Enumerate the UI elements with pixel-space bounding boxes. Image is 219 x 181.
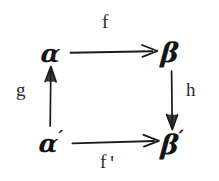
- node-beta-symbol: β: [160, 37, 180, 68]
- commutative-diagram-canvas: α β α′ β′ f g h f': [0, 0, 219, 181]
- edge-label-f: f: [102, 12, 109, 32]
- edge-label-g-text: g: [16, 79, 26, 100]
- node-beta: β: [160, 36, 179, 66]
- edge-label-h: h: [186, 80, 197, 100]
- node-alpha-symbol: α: [39, 39, 61, 68]
- arrow-g: [45, 67, 56, 127]
- edge-label-g: g: [16, 80, 27, 100]
- arrow-h: [167, 71, 178, 130]
- node-alpha-prime: α′: [38, 128, 64, 156]
- node-alpha: α: [40, 38, 61, 66]
- edge-label-f-prime-prime-mark: ': [107, 155, 117, 173]
- arrow-f: [71, 45, 158, 57]
- edge-label-h-text: h: [186, 79, 196, 100]
- edge-label-f-prime: f': [100, 152, 117, 172]
- node-beta-prime: β′: [160, 128, 184, 158]
- arrow-f-prime: [73, 135, 160, 147]
- edge-label-f-text: f: [102, 11, 108, 32]
- edge-label-f-prime-text: f: [100, 151, 106, 172]
